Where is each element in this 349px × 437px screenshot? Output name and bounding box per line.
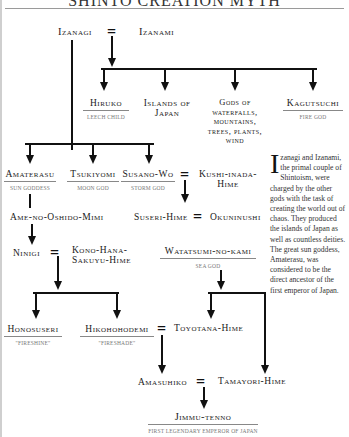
node-watatsumi-subtitle: Sea god bbox=[160, 263, 256, 269]
line-amasuhiko-down bbox=[203, 387, 205, 401]
line-to-toyotana bbox=[210, 292, 212, 312]
node-islands-line2: Japan bbox=[140, 108, 194, 118]
node-toyotana: Toyotana-Hime bbox=[174, 323, 243, 333]
arrow-down-icon bbox=[89, 155, 97, 164]
node-watatsumi: Watatsumi-no-kami bbox=[160, 246, 256, 259]
node-amasuhiko: Amasuhiko bbox=[138, 377, 187, 387]
arrow-down-icon bbox=[28, 236, 36, 245]
line-to-honosuseri bbox=[35, 292, 37, 312]
title-rule bbox=[5, 8, 344, 9]
node-ninigi: Ninigi bbox=[13, 248, 40, 258]
line-izanagi-children-bar bbox=[25, 143, 154, 145]
line-ninigi-children-bar bbox=[33, 292, 119, 294]
marriage-hikohohodemi-toyotana: = bbox=[157, 324, 166, 334]
marriage-suseri-okuninushi: = bbox=[193, 212, 202, 222]
node-kushi-line1: Kushi-inada- bbox=[197, 169, 259, 179]
line-hikohohodemi-down bbox=[161, 335, 163, 367]
line-ninigi-down bbox=[57, 256, 59, 282]
node-tsukiyomi-subtitle: Moon god bbox=[67, 185, 119, 191]
node-watatsumi-name: Watatsumi-no-kami bbox=[160, 246, 256, 259]
arrow-down-icon bbox=[161, 82, 169, 91]
node-susano-name: Susano-Wo bbox=[121, 169, 175, 182]
node-susano-subtitle: Storm god bbox=[121, 185, 175, 191]
dropcap-letter: I bbox=[270, 154, 279, 174]
node-hiruko-name: Hiruko bbox=[83, 98, 129, 111]
line-children-bar bbox=[101, 68, 317, 70]
line-couple-down bbox=[111, 36, 113, 60]
node-gods-line5: wind bbox=[202, 136, 268, 146]
node-kagutsuchi: Kagutsuchi bbox=[283, 98, 343, 111]
node-tamayori: Tamayori-Hime bbox=[218, 376, 286, 386]
line-amaterasu-down bbox=[29, 194, 31, 208]
node-tsukiyomi: Tsukiyomi bbox=[67, 169, 119, 182]
node-okuninushi: Okuninushi bbox=[210, 212, 261, 222]
arrow-down-icon bbox=[181, 194, 189, 203]
arrow-down-icon bbox=[26, 155, 34, 164]
line-watatsumi-children-bar bbox=[208, 292, 266, 294]
node-amaterasu: Amaterasu bbox=[4, 169, 56, 182]
node-honosuseri: Honosuseri bbox=[4, 324, 62, 337]
node-hikohohodemi-name: Hikohohodemi bbox=[80, 324, 154, 337]
node-suseri: Suseri-Hime bbox=[134, 212, 188, 222]
node-honosuseri-subtitle: "Fireshine" bbox=[4, 340, 62, 346]
node-susano: Susano-Wo bbox=[121, 169, 175, 182]
arrow-down-icon bbox=[113, 310, 121, 319]
arrow-down-icon bbox=[158, 365, 166, 374]
node-amaterasu-subtitle: Sun goddess bbox=[4, 185, 56, 191]
arrow-down-icon bbox=[261, 365, 269, 374]
node-izanagi: Izanagi bbox=[58, 27, 92, 37]
node-hiruko: Hiruko bbox=[83, 98, 129, 111]
arrow-down-icon bbox=[231, 82, 239, 91]
node-kono: Kono-Hana- Sakuyu-Hime bbox=[72, 246, 131, 265]
arrow-down-icon bbox=[32, 310, 40, 319]
node-ame: Ame-no-Oshido-Mimi bbox=[10, 212, 104, 222]
marriage-amasuhiko-tamayori: = bbox=[196, 377, 205, 387]
node-jimmu-subtitle: First legendary emperor of Japan bbox=[143, 428, 263, 434]
node-honosuseri-name: Honosuseri bbox=[4, 324, 62, 337]
node-jimmu-name: Jimmu-tenno bbox=[148, 412, 258, 425]
node-islands-line1: Islands of bbox=[140, 98, 194, 108]
node-kushi-line2: Hime bbox=[197, 179, 259, 189]
node-kagutsuchi-name: Kagutsuchi bbox=[283, 98, 343, 111]
node-islands: Islands of Japan bbox=[140, 98, 194, 118]
node-hikohohodemi: Hikohohodemi bbox=[80, 324, 154, 337]
sidebar-body-text: zanagi and Izanami, the primal couple of… bbox=[270, 153, 345, 295]
arrow-down-icon bbox=[108, 58, 116, 67]
node-kagutsuchi-subtitle: Fire god bbox=[283, 114, 343, 120]
node-kono-line2: Sakuyu-Hime bbox=[72, 256, 131, 266]
arrow-down-icon bbox=[207, 310, 215, 319]
arrow-down-icon bbox=[309, 82, 317, 91]
node-amaterasu-name: Amaterasu bbox=[4, 169, 56, 182]
arrow-down-icon bbox=[100, 82, 108, 91]
arrow-down-icon bbox=[54, 281, 62, 290]
left-border bbox=[0, 0, 2, 437]
line-to-hikohohodemi bbox=[116, 292, 118, 312]
node-tsukiyomi-name: Tsukiyomi bbox=[67, 169, 119, 182]
node-jimmu: Jimmu-tenno bbox=[148, 412, 258, 425]
marriage-susano-kushi: = bbox=[180, 170, 189, 180]
line-to-tamayori bbox=[264, 292, 266, 366]
node-izanami: Izanami bbox=[139, 27, 174, 37]
arrow-down-icon bbox=[200, 400, 208, 409]
node-gods: Gods of waterfalls, mountains, trees, pl… bbox=[202, 98, 268, 146]
node-hiruko-subtitle: Leech child bbox=[83, 114, 129, 120]
sidebar-paragraph: Izanagi and Izanami, the primal couple o… bbox=[270, 153, 346, 296]
arrow-down-icon bbox=[145, 155, 153, 164]
node-kushi: Kushi-inada- Hime bbox=[197, 169, 259, 189]
line-izanagi-down bbox=[71, 40, 73, 150]
node-hikohohodemi-subtitle: "Fireshade" bbox=[80, 340, 154, 346]
arrow-down-icon bbox=[217, 281, 225, 290]
